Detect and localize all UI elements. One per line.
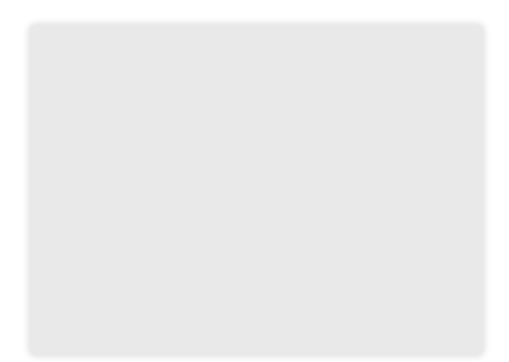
dilation-diagram (0, 0, 509, 362)
